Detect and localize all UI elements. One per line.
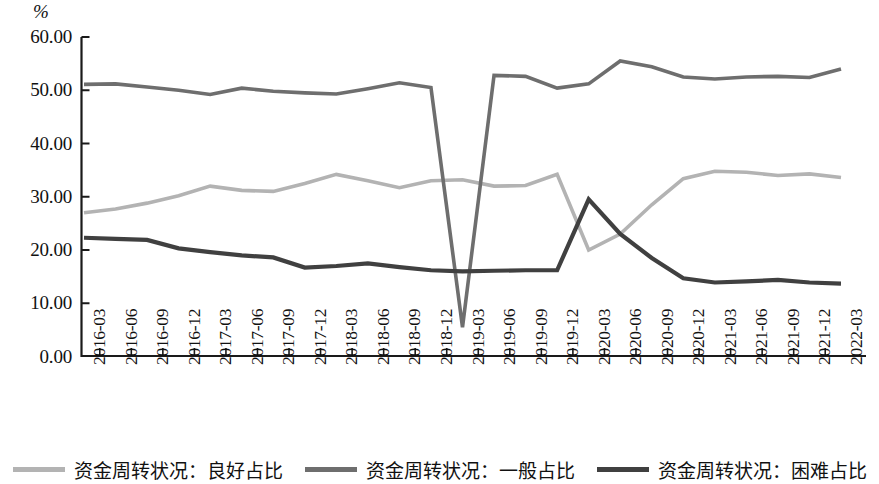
- x-axis-tick-label: 2018-03: [343, 309, 361, 365]
- x-axis-tick-label: 2016-03: [91, 309, 109, 365]
- x-axis-tick-label: 2016-06: [123, 309, 141, 365]
- legend-item[interactable]: 资金周转状况：一般占比: [305, 456, 575, 483]
- legend-swatch-icon: [597, 467, 649, 472]
- series-line: [84, 61, 841, 327]
- x-axis-tick-label: 2021-06: [753, 309, 771, 365]
- x-axis-tick-label: 2019-09: [533, 309, 551, 365]
- x-axis-tick-label: 2021-09: [785, 309, 803, 365]
- x-axis-tick-label: 2016-09: [154, 309, 172, 365]
- series-line: [84, 199, 841, 283]
- data-series-lines: [84, 61, 841, 327]
- x-axis-tick-label: 2019-12: [564, 309, 582, 365]
- y-axis-ticks: [82, 37, 90, 303]
- x-axis-tick-label: 2021-03: [722, 309, 740, 365]
- x-axis-tick-label: 2019-03: [470, 309, 488, 365]
- x-axis-tick-label: 2021-12: [816, 309, 834, 365]
- series-line: [84, 171, 841, 250]
- chart-legend: 资金周转状况：良好占比资金周转状况：一般占比资金周转状况：困难占比: [0, 455, 879, 484]
- legend-item[interactable]: 资金周转状况：困难占比: [597, 456, 867, 483]
- legend-swatch-icon: [13, 467, 65, 472]
- x-axis-tick-label: 2020-12: [690, 309, 708, 365]
- x-axis-tick-label: 2018-09: [406, 309, 424, 365]
- legend-item[interactable]: 资金周转状况：良好占比: [13, 456, 283, 483]
- x-axis-tick-label: 2020-09: [659, 309, 677, 365]
- chart-container: % 0.0010.0020.0030.0040.0050.0060.00 201…: [0, 0, 879, 484]
- x-axis-tick-label: 2018-06: [375, 309, 393, 365]
- x-axis-tick-label: 2018-12: [438, 309, 456, 365]
- x-axis-tick-label: 2019-06: [501, 309, 519, 365]
- x-axis-tick-label: 2017-03: [217, 309, 235, 365]
- x-axis-tick-label: 2016-12: [186, 309, 204, 365]
- legend-label: 资金周转状况：一般占比: [366, 456, 575, 483]
- x-axis-tick-label: 2017-09: [280, 309, 298, 365]
- x-axis-tick-label: 2017-06: [249, 309, 267, 365]
- x-axis-tick-label: 2022-03: [848, 309, 866, 365]
- legend-label: 资金周转状况：良好占比: [74, 456, 283, 483]
- plot-area: [0, 0, 879, 484]
- x-axis-tick-label: 2017-12: [312, 309, 330, 365]
- x-axis-tick-label: 2020-06: [627, 309, 645, 365]
- x-axis-ticks: [100, 348, 825, 356]
- x-axis-tick-label: 2020-03: [596, 309, 614, 365]
- legend-label: 资金周转状况：困难占比: [658, 456, 867, 483]
- legend-swatch-icon: [305, 467, 357, 472]
